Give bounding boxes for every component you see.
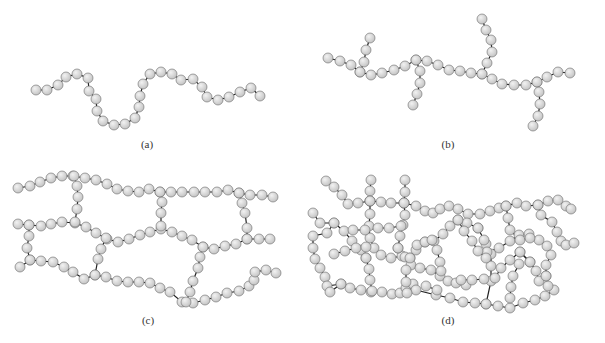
monomer-bead xyxy=(24,231,34,241)
monomer-bead xyxy=(329,182,339,192)
monomer-bead xyxy=(532,77,542,87)
monomer-bead xyxy=(376,250,386,260)
monomer-bead xyxy=(395,231,405,241)
monomer-bead xyxy=(401,277,411,287)
monomer-bead xyxy=(359,57,369,67)
monomer-bead xyxy=(308,243,318,253)
monomer-bead xyxy=(36,256,46,266)
monomer-bead xyxy=(98,116,108,126)
monomer-bead xyxy=(479,274,489,284)
monomer-bead xyxy=(237,198,247,208)
monomer-bead xyxy=(323,53,333,63)
monomer-bead xyxy=(46,219,56,229)
monomer-bead xyxy=(339,226,349,236)
polymer-structures-figure xyxy=(0,0,605,343)
monomer-bead xyxy=(166,187,176,197)
monomer-bead xyxy=(444,65,454,75)
monomer-bead xyxy=(188,276,198,286)
monomer-bead xyxy=(320,272,330,282)
monomer-bead xyxy=(240,208,250,218)
monomer-bead xyxy=(145,69,155,79)
monomer-bead xyxy=(343,199,353,209)
monomer-bead xyxy=(72,204,82,214)
monomer-bead xyxy=(427,235,437,245)
monomer-bead xyxy=(22,243,32,253)
panel-d-network-polymer xyxy=(308,175,579,313)
monomer-bead xyxy=(322,228,332,238)
monomer-bead xyxy=(242,223,252,233)
monomer-bead xyxy=(197,82,207,92)
monomer-bead xyxy=(340,246,350,256)
monomer-bead xyxy=(533,111,543,121)
monomer-bead xyxy=(386,198,396,208)
monomer-bead xyxy=(481,253,491,263)
monomer-bead xyxy=(25,255,35,265)
monomer-bead xyxy=(401,265,411,275)
monomer-bead xyxy=(477,69,487,79)
monomer-bead xyxy=(487,74,497,84)
monomer-bead xyxy=(543,196,553,206)
monomer-bead xyxy=(185,287,195,297)
monomer-bead xyxy=(518,298,528,308)
monomer-bead xyxy=(48,257,58,267)
monomer-bead xyxy=(130,113,140,123)
monomer-bead xyxy=(112,276,122,286)
monomer-bead xyxy=(497,79,507,89)
monomer-bead xyxy=(134,277,144,287)
monomer-bead xyxy=(84,86,94,96)
monomer-bead xyxy=(134,187,144,197)
monomer-bead xyxy=(59,262,69,272)
monomer-bead xyxy=(336,279,346,289)
monomer-bead xyxy=(325,287,335,297)
monomer-bead xyxy=(473,223,483,233)
monomer-bead xyxy=(123,186,133,196)
monomer-bead xyxy=(181,297,191,307)
monomer-bead xyxy=(138,79,148,89)
monomer-bead xyxy=(155,187,165,197)
monomer-bead xyxy=(515,247,525,257)
monomer-bead xyxy=(364,264,374,274)
monomer-bead xyxy=(361,242,371,252)
monomer-bead xyxy=(455,66,465,76)
monomer-bead xyxy=(268,192,278,202)
monomer-bead xyxy=(384,223,394,233)
monomer-bead xyxy=(188,74,198,84)
monomer-bead xyxy=(254,234,264,244)
monomer-bead xyxy=(470,298,480,308)
monomer-bead xyxy=(377,287,387,297)
monomer-bead xyxy=(412,89,422,99)
monomer-bead xyxy=(393,243,403,253)
monomer-bead xyxy=(366,175,376,185)
caption-c: (c) xyxy=(142,314,154,326)
monomer-bead xyxy=(411,201,421,211)
monomer-bead xyxy=(482,58,492,68)
monomer-bead xyxy=(415,66,425,76)
monomer-bead xyxy=(547,217,557,227)
monomer-bead xyxy=(165,287,175,297)
monomer-bead xyxy=(360,225,370,235)
monomer-bead xyxy=(473,246,483,256)
monomer-bead xyxy=(415,78,425,88)
monomer-bead xyxy=(389,65,399,75)
monomer-bead xyxy=(255,91,265,101)
monomer-bead xyxy=(61,72,71,82)
monomer-bead xyxy=(176,75,186,85)
monomer-bead xyxy=(365,209,375,219)
monomer-bead xyxy=(81,222,91,232)
monomer-bead xyxy=(193,263,203,273)
monomer-bead xyxy=(543,281,553,291)
monomer-bead xyxy=(68,267,78,277)
monomer-bead xyxy=(195,252,205,262)
monomer-bead xyxy=(377,68,387,78)
monomer-bead xyxy=(177,187,187,197)
monomer-bead xyxy=(400,187,410,197)
monomer-bead xyxy=(402,288,412,298)
panel-a-linear-polymer xyxy=(31,67,265,130)
monomer-bead xyxy=(361,45,371,55)
monomer-bead xyxy=(535,99,545,109)
monomer-bead xyxy=(415,263,425,273)
monomer-bead xyxy=(31,85,41,95)
monomer-bead xyxy=(356,285,366,295)
monomer-bead xyxy=(400,210,410,220)
monomer-bead xyxy=(376,197,386,207)
